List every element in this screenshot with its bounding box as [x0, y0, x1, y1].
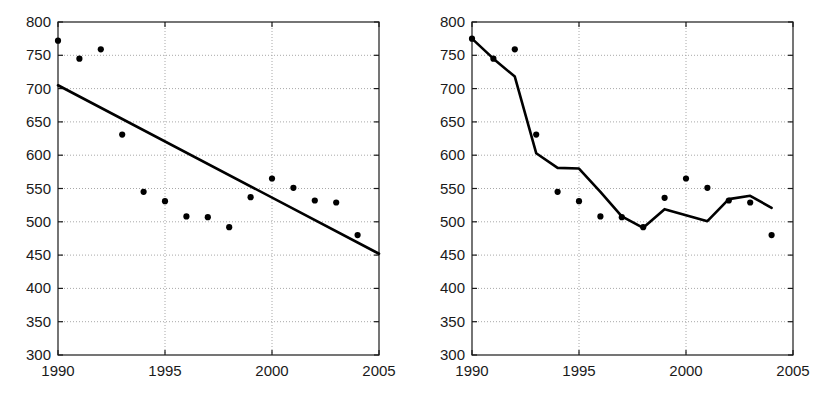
y-tick-label: 300: [26, 346, 51, 363]
x-tick-label: 2000: [255, 362, 288, 379]
data-point-marker: [512, 46, 518, 52]
data-point-marker: [576, 198, 582, 204]
y-tick-label: 500: [440, 213, 465, 230]
data-point-marker: [597, 213, 603, 219]
data-point-marker: [312, 197, 318, 203]
x-tick-label: 1995: [562, 362, 595, 379]
x-tick-label: 1995: [148, 362, 181, 379]
y-tick-label: 400: [440, 279, 465, 296]
y-tick-label: 350: [440, 313, 465, 330]
y-tick-label: 400: [26, 279, 51, 296]
data-point-marker: [162, 198, 168, 204]
data-point-marker: [98, 46, 104, 52]
right-chart-svg: 3003504004505005506006507007508001990199…: [414, 0, 829, 395]
data-point-marker: [662, 195, 668, 201]
x-tick-label: 2005: [776, 362, 809, 379]
data-point-marker: [76, 56, 82, 62]
data-point-marker: [248, 194, 254, 200]
data-point-marker: [533, 131, 539, 137]
y-tick-label: 600: [26, 146, 51, 163]
x-tick-label: 1990: [41, 362, 74, 379]
data-point-marker: [555, 189, 561, 195]
y-tick-label: 650: [26, 113, 51, 130]
data-point-marker: [769, 232, 775, 238]
y-tick-label: 750: [26, 46, 51, 63]
y-tick-label: 550: [440, 180, 465, 197]
chart-panel-left: 3003504004505005506006507007508001990199…: [0, 0, 415, 395]
data-point-marker: [704, 185, 710, 191]
y-tick-label: 350: [26, 313, 51, 330]
y-tick-label: 500: [26, 213, 51, 230]
data-point-marker: [683, 175, 689, 181]
data-point-marker: [226, 224, 232, 230]
y-tick-label: 450: [440, 246, 465, 263]
y-tick-label: 800: [440, 13, 465, 30]
y-tick-label: 700: [440, 80, 465, 97]
left-chart-svg: 3003504004505005506006507007508001990199…: [0, 0, 415, 395]
data-point-marker: [183, 213, 189, 219]
x-tick-label: 2000: [669, 362, 702, 379]
y-tick-label: 450: [26, 246, 51, 263]
y-tick-label: 550: [26, 180, 51, 197]
data-point-marker: [55, 38, 61, 44]
x-tick-label: 1990: [455, 362, 488, 379]
y-tick-label: 600: [440, 146, 465, 163]
y-tick-label: 800: [26, 13, 51, 30]
data-point-marker: [747, 199, 753, 205]
x-tick-label: 2005: [362, 362, 395, 379]
data-point-marker: [141, 189, 147, 195]
data-point-marker: [119, 131, 125, 137]
data-point-marker: [269, 175, 275, 181]
data-point-marker: [205, 214, 211, 220]
data-point-marker: [333, 199, 339, 205]
chart-panel-right: 3003504004505005506006507007508001990199…: [414, 0, 829, 395]
figure-container: 3003504004505005506006507007508001990199…: [0, 0, 829, 395]
y-tick-label: 650: [440, 113, 465, 130]
y-tick-label: 750: [440, 46, 465, 63]
data-point-marker: [355, 232, 361, 238]
series-line-linear-trend: [58, 85, 379, 253]
data-point-marker: [290, 185, 296, 191]
y-tick-label: 700: [26, 80, 51, 97]
y-tick-label: 300: [440, 346, 465, 363]
